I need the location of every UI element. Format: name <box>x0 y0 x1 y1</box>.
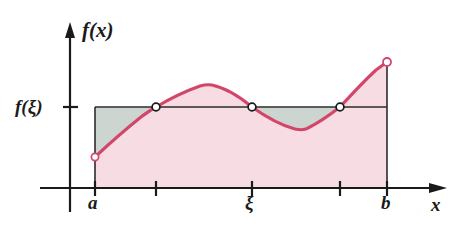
x-tick-label-b: b <box>381 193 391 212</box>
marker-intersection-xi <box>248 103 256 111</box>
x-axis-arrow-icon <box>429 183 447 193</box>
marker-point-a <box>91 153 98 160</box>
y-axis-arrow-icon <box>65 22 75 38</box>
mean-value-theorem-figure: f(x) f(ξ) a ξ b x <box>0 0 466 228</box>
area-under-curve <box>95 62 387 188</box>
y-tick-label-f-xi: f(ξ) <box>15 97 43 116</box>
marker-intersection-1 <box>152 103 160 111</box>
marker-point-b <box>383 58 391 66</box>
figure-canvas <box>0 0 466 228</box>
x-tick-label-xi: ξ <box>245 193 254 212</box>
x-tick-label-a: a <box>88 193 98 212</box>
y-axis-label: f(x) <box>82 20 113 41</box>
marker-intersection-2 <box>336 103 344 111</box>
x-axis-label: x <box>431 195 441 214</box>
